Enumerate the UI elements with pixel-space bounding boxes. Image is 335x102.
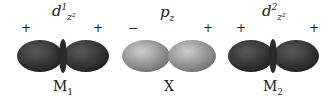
phase-sign: + (309, 21, 319, 35)
phase-sign: + (21, 21, 31, 35)
pz-orbital-x (122, 40, 216, 72)
phase-sign: + (93, 21, 103, 35)
atom-label-m1: M1 (43, 78, 83, 97)
phase-sign: + (203, 21, 213, 35)
phase-sign: − (128, 21, 138, 35)
dz2-orbital-m2 (228, 39, 319, 73)
dz2-orbital-m1 (17, 39, 109, 73)
orbital-label-m1: d1z² (52, 2, 76, 22)
atom-label-m2: M2 (253, 78, 293, 97)
atom-label-x: X (149, 78, 189, 94)
phase-sign: + (236, 21, 246, 35)
orbital-label-m2: d2z² (262, 2, 286, 22)
orbital-label-x: pz (160, 3, 174, 23)
